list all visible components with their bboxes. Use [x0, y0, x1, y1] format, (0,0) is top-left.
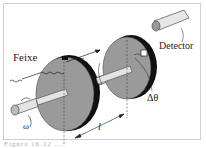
detector-icon	[152, 10, 189, 42]
delta-theta-label: Δθ	[147, 92, 158, 103]
detector-label: Detector	[159, 40, 193, 51]
figure-caption: Figura 16.12 ...	[4, 140, 204, 148]
omega-label: ω	[23, 121, 29, 131]
rotation-arrow-icon	[21, 98, 30, 101]
distance-label: l	[98, 121, 101, 132]
velocity-selector-diagram	[0, 0, 206, 148]
disk-front	[36, 55, 100, 131]
beam-label: Feixe	[13, 51, 37, 63]
